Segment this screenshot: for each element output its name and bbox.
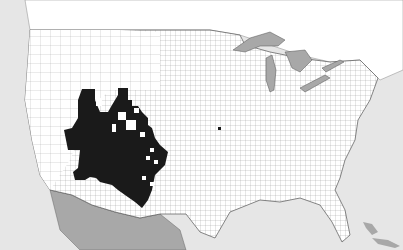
distribution-map	[0, 0, 403, 250]
outlier-county	[218, 127, 221, 130]
